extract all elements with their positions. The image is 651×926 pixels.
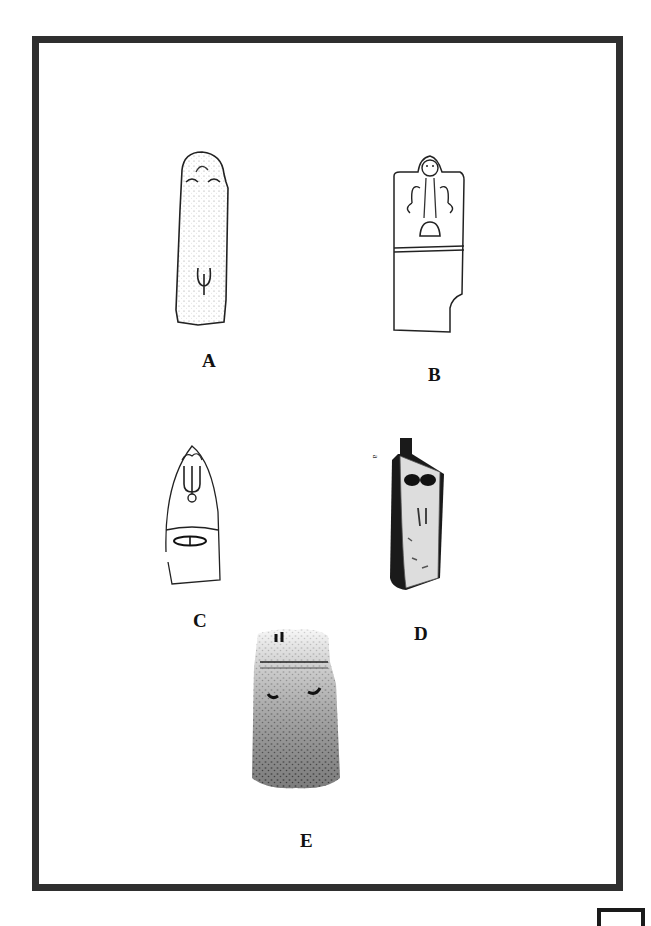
figure-e-stela (246, 628, 346, 803)
figure-c-stela (162, 442, 232, 592)
figure-e-label: E (300, 830, 313, 852)
page-number-box (597, 908, 645, 926)
figure-a-stela (168, 150, 238, 330)
side-mark: a (371, 455, 380, 459)
figure-d-label: D (414, 623, 428, 645)
figure-a-label: A (202, 350, 216, 372)
figure-c-label: C (193, 610, 207, 632)
figure-b-label: B (428, 364, 441, 386)
figure-d-stela (382, 438, 457, 598)
figure-b-stela (390, 148, 470, 338)
